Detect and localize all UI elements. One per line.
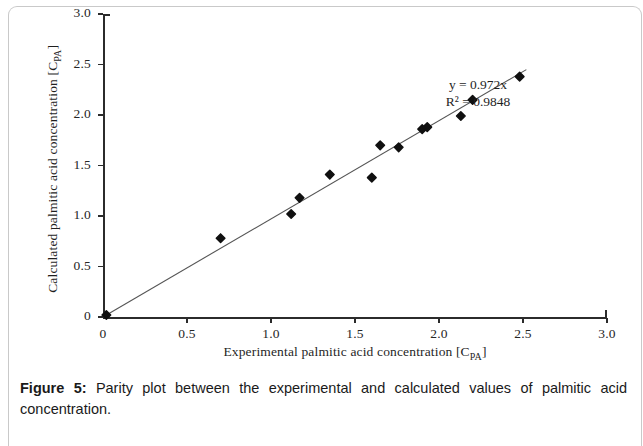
x-axis-tick-label: 2.5 — [500, 326, 546, 342]
data-point-marker — [368, 173, 377, 182]
regression-r-squared: R² = 0.9848 — [403, 93, 553, 110]
data-point-marker — [376, 141, 385, 150]
y-axis-title-subscript: PA — [52, 50, 63, 62]
plot-area: 00.51.01.52.02.53.0 00.51.01.52.02.53.0 … — [103, 14, 607, 317]
y-axis-title-end: ] — [45, 45, 60, 50]
x-axis-tick-label: 0.5 — [164, 326, 210, 342]
x-axis-title-end: ] — [482, 344, 487, 359]
x-axis-title: Experimental palmitic acid concentration… — [103, 344, 607, 362]
x-axis-title-subscript: PA — [470, 351, 482, 362]
data-point-marker — [394, 143, 403, 152]
regression-equation: y = 0.972x — [403, 76, 553, 93]
x-axis-tick — [522, 318, 523, 323]
figure-parity-plot: 00.51.01.52.02.53.0 00.51.01.52.02.53.0 … — [0, 0, 643, 372]
x-axis-tick-label: 3.0 — [584, 326, 630, 342]
regression-annotation: y = 0.972x R² = 0.9848 — [403, 76, 553, 111]
figure-caption-label: Figure 5: — [20, 380, 87, 396]
x-axis-tick — [438, 318, 439, 323]
x-axis-tick — [606, 318, 607, 323]
x-axis-tick — [186, 318, 187, 323]
x-axis-tick — [270, 318, 271, 323]
scatter-plot-canvas — [103, 14, 607, 318]
x-axis-tick — [354, 318, 355, 323]
figure-caption: Figure 5: Parity plot between the experi… — [20, 378, 627, 419]
data-point-marker — [216, 234, 225, 243]
data-point-marker — [287, 210, 296, 219]
data-point-marker — [102, 311, 111, 320]
x-axis-tick-label: 1.0 — [248, 326, 294, 342]
y-axis-title-main: Calculated palmitic acid concentration [… — [45, 62, 60, 293]
data-point-marker — [326, 170, 335, 179]
x-axis-tick-label: 2.0 — [416, 326, 462, 342]
x-axis-tick-label: 0 — [80, 326, 126, 342]
data-point-marker — [457, 112, 466, 121]
x-axis-title-main: Experimental palmitic acid concentration… — [223, 344, 469, 359]
figure-caption-text: Parity plot between the experimental and… — [20, 380, 627, 417]
y-axis-title: Calculated palmitic acid concentration [… — [45, 19, 63, 319]
x-axis-tick-label: 1.5 — [332, 326, 378, 342]
